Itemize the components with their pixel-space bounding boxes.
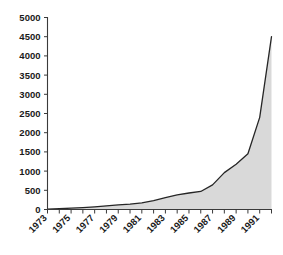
y-tick-label: 1500 <box>19 146 40 157</box>
y-tick-label: 4000 <box>19 50 40 61</box>
area-chart: 0500100015002000250030003500400045005000… <box>0 0 283 255</box>
y-tick-label: 3000 <box>19 89 40 100</box>
chart-container: 0500100015002000250030003500400045005000… <box>0 0 283 255</box>
y-tick-label: 500 <box>25 185 41 196</box>
y-tick-label: 2000 <box>19 127 40 138</box>
y-tick-label: 1000 <box>19 166 40 177</box>
y-tick-label: 4500 <box>19 31 40 42</box>
y-tick-label: 2500 <box>19 108 40 119</box>
y-tick-label: 5000 <box>19 12 40 23</box>
y-tick-label: 3500 <box>19 70 40 81</box>
